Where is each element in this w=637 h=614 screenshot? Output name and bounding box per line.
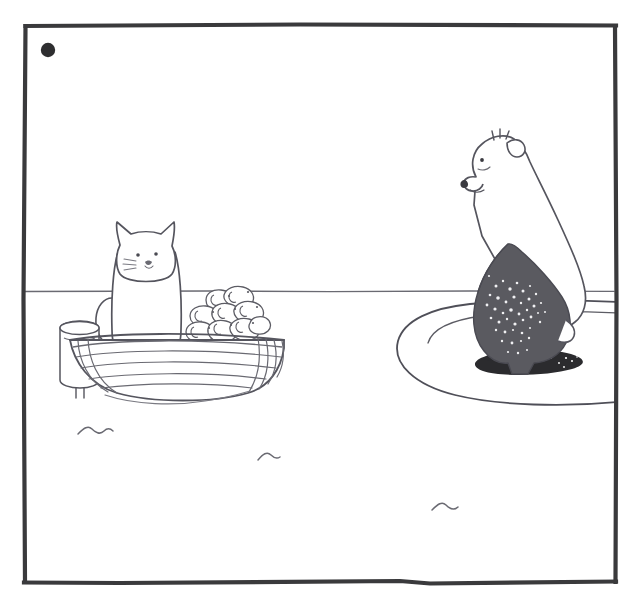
- cat-head: [117, 222, 176, 282]
- bear-eye: [480, 158, 484, 162]
- cat-eye-left: [136, 253, 140, 257]
- illustration-panel: Cat in Boat and Polar Bear on Ice Floe: [0, 0, 637, 614]
- scene-canvas: [0, 0, 637, 614]
- cat-eye-right: [154, 252, 158, 256]
- sun-icon: [41, 43, 55, 57]
